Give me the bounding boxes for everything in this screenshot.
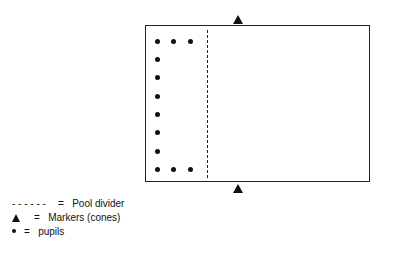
triangle-icon [12, 214, 20, 222]
pupil-dot-icon [155, 57, 160, 62]
marker-cone-bottom-icon [233, 184, 243, 193]
pupil-dot-icon [155, 75, 160, 80]
marker-cone-top-icon [233, 15, 243, 24]
legend-item-markers: = Markers (cones) [12, 212, 120, 224]
legend-equals: = [24, 226, 30, 237]
dot-icon [12, 229, 16, 233]
legend-item-pupils: = pupils [12, 226, 64, 238]
pupil-dot-icon [188, 39, 193, 44]
legend-item-pool-divider: - - - - - -= Pool divider [12, 198, 124, 210]
pupil-dot-icon [155, 149, 160, 154]
pupil-dot-icon [155, 39, 160, 44]
pupil-dot-icon [155, 167, 160, 172]
legend-label: pupils [38, 226, 64, 237]
pupil-dot-icon [155, 112, 160, 117]
legend-equals: = [34, 212, 40, 223]
legend-equals: = [58, 198, 64, 209]
pupil-dot-icon [155, 94, 160, 99]
legend-label: Markers (cones) [48, 212, 120, 223]
legend-label: Pool divider [72, 198, 124, 209]
pupil-dot-icon [155, 130, 160, 135]
pupil-dot-icon [171, 167, 176, 172]
pool-divider-line [207, 30, 208, 178]
legend-dashes: - - - - - - [12, 198, 58, 210]
pool-outline [145, 25, 370, 182]
pupil-dot-icon [171, 39, 176, 44]
pupil-dot-icon [188, 167, 193, 172]
